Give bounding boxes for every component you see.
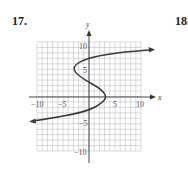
x-axis-arrow-icon [150, 95, 156, 100]
y-axis-arrow-icon [87, 30, 92, 36]
coordinate-graph: x y −10 −5 5 10 10 5 −5 −10 [0, 0, 188, 170]
y-tick-label: −5 [79, 119, 88, 128]
y-tick-label: 5 [83, 66, 87, 75]
y-axis-label: y [85, 20, 90, 29]
y-tick-label: −10 [74, 148, 87, 157]
curve-arrow-left-icon [29, 119, 36, 124]
x-tick-label: −5 [58, 100, 67, 109]
x-tick-label: 10 [136, 100, 144, 109]
x-tick-label: −10 [31, 100, 44, 109]
curve-arrow-right-icon [149, 47, 156, 52]
y-tick-label: 10 [79, 42, 87, 51]
x-axis-label: x [157, 93, 162, 102]
x-tick-label: 5 [113, 100, 117, 109]
